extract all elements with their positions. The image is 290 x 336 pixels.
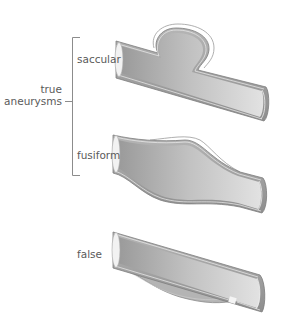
fusiform-label: fusiform — [77, 149, 120, 161]
false-vessel — [112, 232, 265, 312]
saccular-label: saccular — [77, 53, 121, 65]
saccular-vessel — [115, 24, 269, 121]
aneurysm-diagram: saccular true aneurysms fusiform false — [0, 0, 290, 336]
true-aneurysms-label-line1: true — [10, 83, 62, 95]
true-aneurysms-label-line2: aneurysms — [4, 95, 62, 107]
false-label: false — [77, 248, 102, 260]
fusiform-vessel — [112, 135, 267, 213]
diagram-graphics — [0, 0, 290, 336]
